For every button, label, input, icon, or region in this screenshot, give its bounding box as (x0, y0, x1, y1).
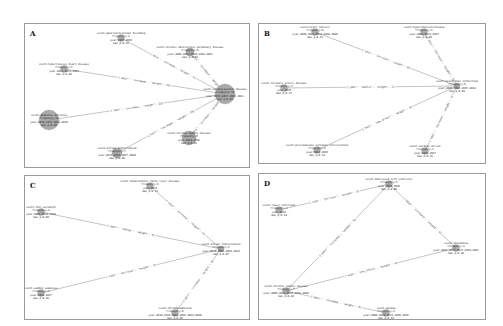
graph-edge: {'edit': 'increase', 'weight': 15} (117, 94, 225, 153)
graph-node: event:anemiaFrequency:4year:2008,2010,20… (363, 307, 409, 320)
node-label-line: max_p:0.16 (33, 297, 49, 300)
graph-node: event:hypercholesterolemiaFrequency:5yea… (404, 26, 445, 39)
node-label-line: max_p:0.08 (56, 73, 72, 76)
graph-node: event:fall accidentFrequency:4year:2008,… (26, 206, 56, 219)
graph-node: event:lower infectionFrequency:3year:201… (263, 204, 296, 217)
node-label-line: max_p:0.13 (142, 190, 158, 193)
node-label-line: max_p:0.08 (381, 188, 397, 191)
graph-node: event:gastrointestinal bleedingFrequency… (97, 32, 146, 45)
panel-d: D{'edit': 'increase', 'weight': 3}{'edit… (258, 173, 486, 320)
node-label-line: max_p:0.11 (307, 36, 323, 39)
graph-node: event:cardiac arrestFrequency:3year:2014… (409, 145, 441, 158)
edge-label: {'edit': 'new_effect', 'weight': 4} (362, 105, 413, 131)
node-label-line: max_p:0.21 (113, 42, 129, 45)
edge-label: {'edit': 'increase', 'weight': 23} (111, 102, 164, 113)
edge-label: {'edit': 'hatter', 'weight': 4} (107, 225, 155, 238)
edge-label: {'edit': 'increase', 'weight': 4} (403, 197, 443, 235)
graph-edge: {'edit': 'increase', 'weight': 5} (424, 32, 457, 86)
node-label-line: max_p:0.12 (378, 317, 394, 320)
network-graph: {'edit': 'increase', 'weight': 9}{'edit'… (25, 24, 251, 169)
node-label-line: max_p:0.06 (109, 157, 125, 160)
edge-label: {'edit': 'increase', 'weight': 6} (182, 259, 215, 303)
node-label-line: max_p:0.07 (213, 253, 229, 256)
edge-label: {'edit': 'increase', 'weight': 3} (429, 95, 455, 143)
graph-node: event:diabetes mellitusFrequency:14year:… (30, 110, 68, 130)
graph-edge: {'edit': 'increase', 'weight': 4} (389, 184, 456, 248)
node-label-line: max_p:0.05 (181, 142, 197, 145)
graph-edge: {'edit': 'hatter', 'weight': 4} (41, 212, 221, 249)
graph-edge: {'edit': 'increase', 'weight': 12} (64, 69, 225, 94)
graph-node: event:heart failureFrequency:6year:2010,… (292, 26, 338, 39)
graph-edge: {'edit': 'increase', 'weight': 5} (286, 184, 389, 291)
edge-label: {'edit': 'new_effect', 'weight': 4} (344, 262, 398, 278)
edge-label: {'edit': 'increase', 'weight': 8} (361, 49, 411, 70)
node-label-line: max_p:0.09 (416, 36, 432, 39)
graph-edge: {'edit': 'new_effect', 'weight': 4} (286, 248, 456, 291)
network-graph: {'edit': 'increase', 'weight': 3}{'edit'… (259, 174, 487, 321)
edge-label: {'edit': 'increase', 'weight': 4} (165, 200, 206, 237)
graph-node: event:thromboembolismFrequency:6year:201… (148, 307, 202, 320)
node-label-line: max_p:0.14 (271, 214, 287, 217)
node-label-line: max_p:0.02 (41, 124, 57, 127)
node-label-line: max_p:0.15 (417, 155, 433, 158)
graph-node: event:sudden weaknessFrequency:3year:201… (25, 287, 58, 300)
graph-node: event:depressed left ventricleFrequency:… (366, 178, 413, 191)
graph-node: event:percutaneous coronary intervention… (286, 144, 349, 157)
graph-node: event:pneumoniaFrequency:4year:2011,2014… (433, 242, 479, 255)
network-graph: {'edit': 'increase', 'weight': 4}{'edit'… (25, 176, 251, 321)
edge-label: {'edit': 'increase', 'weight': 3} (310, 295, 361, 309)
node-label-line: max_p:0.12 (309, 154, 325, 157)
node-label-line: max_p:0.03 (217, 98, 233, 101)
node-label-line: max_p:0.14 (182, 56, 198, 59)
graph-node: event:myocardial infarctionFrequency:9ye… (436, 80, 479, 93)
graph-edge: {'edit': 'increase', 'weight': 3} (279, 184, 389, 210)
node-label-line: max_p:0.04 (449, 90, 465, 93)
node-label-line: max_p:0.09 (33, 216, 49, 219)
edge-label: {'edit': 'decrease', 'weight': 3} (106, 264, 157, 279)
graph-edge: {'edit': 'increase', 'weight': 23} (49, 94, 225, 120)
node-label-line: max_p:0.10 (448, 252, 464, 255)
graph-edge: {'edit': 'hatter', 'weight': 3} (284, 85, 457, 89)
node-label-line: max_p:0.17 (276, 92, 292, 95)
graph-edge: {'edit': 'increase', 'weight': 8} (315, 32, 457, 86)
graph-edge: {'edit': 'new_effect', 'weight': 4} (317, 86, 457, 150)
graph-node: event:chronic obstructive pulmonary dise… (156, 46, 224, 59)
graph-node: event:nonalcoholic fatty liver diseaseFr… (120, 180, 180, 193)
edge-label: {'edit': 'increase', 'weight': 3} (309, 190, 360, 205)
panel-c: C{'edit': 'increase', 'weight': 4}{'edit… (24, 175, 250, 320)
panel-b: B{'edit': 'increase', 'weight': 8}{'edit… (258, 23, 486, 164)
graph-node: event:hypertensive heart diseaseFrequenc… (39, 63, 89, 76)
node-label-line: max_p:0.04 (278, 295, 294, 298)
graph-edge: {'edit': 'increase', 'weight': 3} (425, 86, 457, 151)
graph-node: event:cardiovascular diseaseFrequency:12… (203, 84, 247, 104)
edge-label: {'edit': 'hatter', 'weight': 3} (346, 86, 395, 90)
node-label-line: max_p:0.05 (167, 317, 183, 320)
network-graph: {'edit': 'increase', 'weight': 8}{'edit'… (259, 24, 487, 165)
panel-a: A{'edit': 'increase', 'weight': 9}{'edit… (24, 23, 250, 168)
edge-label: {'edit': 'increase', 'weight': 5} (319, 218, 357, 258)
graph-edge: {'edit': 'increase', 'weight': 4} (150, 186, 221, 249)
graph-node: event:chronic kidney diseaseFrequency:9y… (167, 131, 211, 145)
edge-label: {'edit': 'increase', 'weight': 12} (118, 76, 171, 87)
graph-node: event:atrial fibrillationFrequency:7year… (97, 147, 136, 160)
graph-node: event:atrial fibrillationFrequency:5year… (201, 243, 240, 256)
graph-node: event:chronic kidney diseaseFrequency:7y… (263, 285, 309, 298)
graph-node: event:coronary artery diseaseFrequency:3… (261, 82, 307, 95)
